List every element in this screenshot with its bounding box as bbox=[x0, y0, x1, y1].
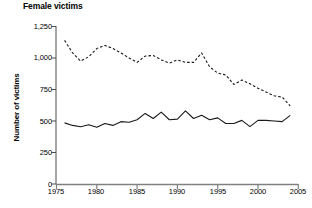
y-axis-ticks bbox=[51, 27, 56, 185]
x-axis bbox=[56, 184, 298, 189]
data-line-dashed bbox=[65, 40, 291, 106]
chart-figure: Female victims Number of victims 1,250 1… bbox=[0, 0, 312, 208]
plot-area bbox=[0, 0, 312, 208]
y-axis bbox=[51, 26, 56, 184]
data-line-solid bbox=[65, 111, 291, 127]
